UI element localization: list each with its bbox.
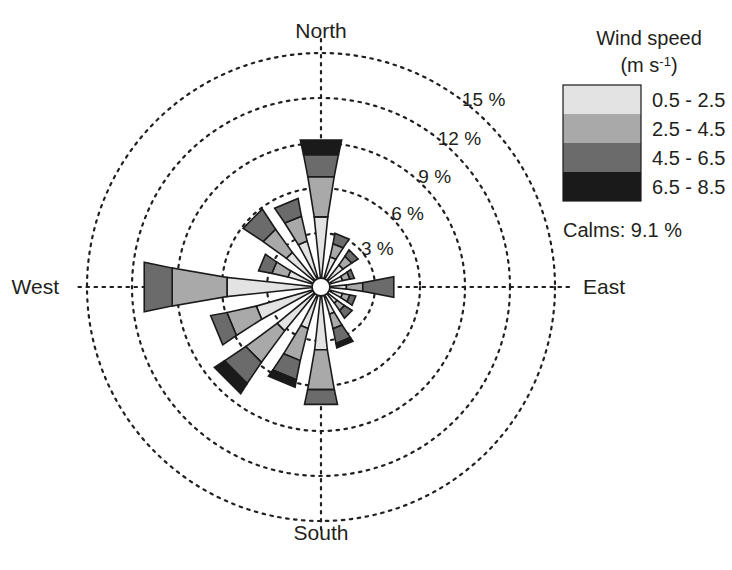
legend-label-3: 6.5 - 8.5 (652, 176, 725, 198)
petal-segment-s-4_5_6_5 (305, 390, 338, 405)
hub-circle (312, 278, 330, 296)
radial-tick-label-6: 6 % (391, 203, 424, 224)
radial-tick-label-9: 9 % (418, 166, 451, 187)
legend-swatch-2 (563, 143, 641, 172)
petal-segment-n-0_5_2_5 (314, 217, 328, 278)
legend-label-1: 2.5 - 4.5 (652, 118, 725, 140)
petal-segment-wnw-4_5_6_5 (259, 254, 277, 273)
petal-group (144, 140, 394, 404)
legend-swatch-1 (563, 114, 641, 143)
legend-label-2: 4.5 - 6.5 (652, 147, 725, 169)
petal-segment-n-4_5_6_5 (304, 155, 339, 177)
petal-segment-e-4_5_6_5 (363, 277, 394, 297)
petal-segment-e-2_5_4_5 (346, 283, 362, 292)
compass-label-north: North (295, 19, 346, 42)
legend-swatch-0 (563, 85, 641, 114)
petal-segment-n-6_5_8_5 (300, 140, 341, 155)
petal-segment-w-4_5_6_5 (144, 262, 172, 312)
legend-label-group: 0.5 - 2.52.5 - 4.54.5 - 6.56.5 - 8.5 (652, 89, 725, 198)
wind-rose-figure: 3 %6 %9 %12 %15 % North East South West … (0, 0, 732, 570)
petal-segment-s-0_5_2_5 (315, 296, 328, 350)
center-hub (312, 278, 330, 296)
petal-segment-w-2_5_4_5 (172, 268, 227, 306)
petal-segment-n-2_5_4_5 (308, 177, 334, 217)
legend-label-0: 0.5 - 2.5 (652, 89, 725, 111)
legend-title-line1: Wind speed (596, 27, 702, 49)
radial-tick-labels: 3 %6 %9 %12 %15 % (361, 89, 505, 259)
compass-label-west: West (12, 275, 60, 298)
radial-tick-label-15: 15 % (462, 89, 505, 110)
compass-label-south: South (294, 521, 349, 544)
legend: Wind speed (m s-1) 0.5 - 2.52.5 - 4.54.5… (563, 27, 725, 241)
radial-tick-label-12: 12 % (438, 128, 481, 149)
petal-segment-ese-4_5_6_5 (347, 295, 356, 305)
legend-swatch-3 (563, 172, 641, 201)
compass-label-east: East (583, 275, 625, 298)
legend-title-line2: (m s-1) (620, 54, 677, 76)
radial-tick-label-3: 3 % (361, 238, 394, 259)
petal-segment-s-2_5_4_5 (308, 350, 335, 390)
wind-rose-svg: 3 %6 %9 %12 %15 % North East South West … (0, 0, 732, 570)
legend-swatch-group (563, 85, 641, 201)
calms-label: Calms: 9.1 % (563, 219, 682, 241)
petal-segment-e-0_5_2_5 (330, 285, 346, 289)
